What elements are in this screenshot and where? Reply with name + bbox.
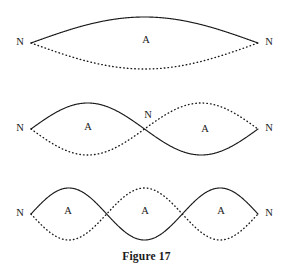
node-label-third-harmonic-0: N	[16, 207, 24, 218]
node-label-fundamental-1: N	[265, 36, 273, 47]
antinode-label-third-harmonic-2: A	[217, 205, 225, 216]
wave-curve-fundamental-dotted	[31, 43, 258, 69]
node-label-fundamental-0: N	[16, 36, 24, 47]
node-label-second-harmonic-0: N	[16, 122, 24, 133]
figure-caption: Figure 17	[0, 250, 293, 262]
antinode-label-second-harmonic-0: A	[84, 121, 92, 132]
node-label-second-harmonic-1: N	[144, 109, 152, 120]
antinode-label-third-harmonic-1: A	[141, 205, 149, 216]
standing-wave-diagram: NNANNNAANNAAA	[0, 0, 293, 271]
antinode-label-third-harmonic-0: A	[64, 205, 72, 216]
node-label-third-harmonic-3: N	[265, 207, 273, 218]
wave-labels-layer: NNANNNAANNAAA	[16, 34, 273, 218]
figure-container: NNANNNAANNAAA Figure 17	[0, 0, 293, 271]
node-label-second-harmonic-2: N	[265, 122, 273, 133]
antinode-label-fundamental-0: A	[142, 34, 150, 45]
antinode-label-second-harmonic-1: A	[201, 123, 209, 134]
